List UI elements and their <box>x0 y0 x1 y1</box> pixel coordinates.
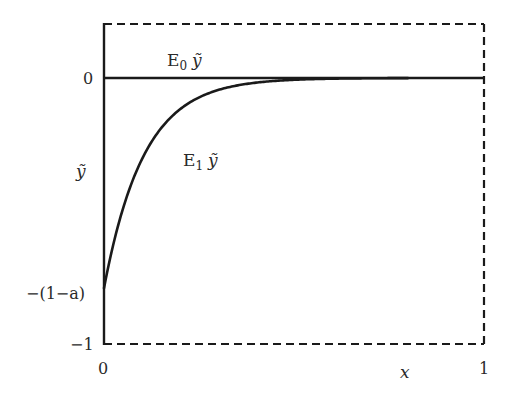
x-axis-label: x <box>400 362 410 382</box>
y-axis-label: ỹ <box>75 161 86 181</box>
label-e1-y: E1ỹ <box>183 150 218 173</box>
ytick-0: 0 <box>83 69 93 88</box>
label-e0-y: E0ỹ <box>167 50 202 73</box>
chart-canvas: E0ỹ E1ỹ ỹ x 0 −(1−a) −1 0 1 <box>0 0 514 402</box>
series-e1-curve <box>104 78 408 288</box>
ytick-one-minus-a: −(1−a) <box>26 284 85 303</box>
xtick-1: 1 <box>479 359 489 378</box>
figure: E0ỹ E1ỹ ỹ x 0 −(1−a) −1 0 1 <box>0 0 514 402</box>
xtick-0: 0 <box>98 359 108 378</box>
ytick-minus-1: −1 <box>70 335 94 354</box>
